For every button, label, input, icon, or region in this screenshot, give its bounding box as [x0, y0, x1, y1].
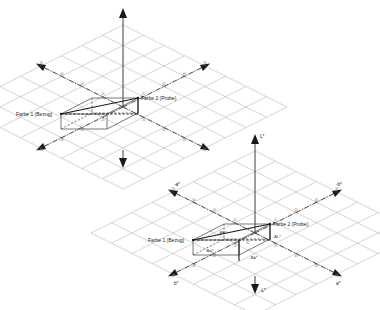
box-bottom-back-top	[61, 113, 138, 129]
axes-bottom	[168, 134, 342, 294]
svg-text:-40: -40	[80, 82, 84, 86]
delta-l-label-bottom: ΔL*	[274, 234, 281, 239]
sample-label-top: Farbe 2 (Probe)	[141, 95, 177, 101]
svg-text:-40: -40	[80, 128, 84, 132]
reference-label-bottom: Farbe 1 (Bezug)	[148, 237, 184, 243]
svg-text:60: 60	[315, 198, 318, 202]
grid-bottom	[91, 151, 380, 310]
svg-text:60: 60	[183, 72, 186, 76]
axis-label-lower-left-bottom: b*	[174, 281, 179, 286]
axis-label-down-bottom: -L*	[260, 288, 266, 293]
svg-text:-60: -60	[60, 138, 64, 142]
sample-point-top	[137, 97, 139, 99]
svg-text:-40: -40	[212, 254, 216, 258]
box-bottom-front-top	[61, 113, 138, 129]
svg-text:-80: -80	[39, 61, 43, 65]
sample-label-bottom: Farbe 2 (Probe)	[273, 221, 309, 227]
delta-e-vector-top	[61, 98, 138, 114]
svg-text:-80: -80	[171, 274, 175, 278]
svg-text:-20: -20	[233, 218, 237, 222]
arrow-down-top	[119, 158, 127, 168]
svg-text:-60: -60	[60, 72, 64, 76]
svg-text:-80: -80	[39, 148, 43, 152]
axis-label-lower-right-bottom: a*	[336, 281, 341, 286]
axis-label-up-bottom: L*	[260, 134, 265, 139]
box-bottom-back-bottom	[193, 239, 270, 255]
arrow-up-bottom	[251, 134, 259, 144]
delta-a-label-bottom: Δa*	[207, 248, 214, 253]
box-bottom-front-bottom	[193, 239, 270, 255]
svg-text:-20: -20	[233, 244, 237, 248]
sample-point-bottom	[269, 223, 271, 225]
svg-text:-60: -60	[192, 198, 196, 202]
axis-label-upper-right-bottom: -b*	[336, 182, 342, 187]
delta-b-label-bottom: Δb*	[251, 255, 258, 260]
axis-label-upper-left-bottom: -a*	[174, 182, 180, 187]
cielab-diagram-bottom: -80-60-40-2020406080-80-60-40-2020406080…	[130, 128, 380, 308]
reference-point-bottom	[192, 239, 194, 241]
svg-text:-80: -80	[171, 187, 175, 191]
svg-text:-40: -40	[212, 208, 216, 212]
reference-label-top: Farbe 1 (Bezug)	[16, 111, 52, 117]
chroma-label-bottom: C	[246, 240, 249, 245]
svg-text:-20: -20	[101, 118, 105, 122]
svg-text:-20: -20	[101, 92, 105, 96]
reference-point-top	[60, 113, 62, 115]
delta-e-label-bottom: ΔE*	[219, 230, 227, 235]
arrow-up-top	[119, 8, 127, 18]
svg-text:-60: -60	[192, 264, 196, 268]
arrow-down-bottom	[251, 284, 259, 294]
delta-e-vector-bottom	[193, 224, 270, 240]
